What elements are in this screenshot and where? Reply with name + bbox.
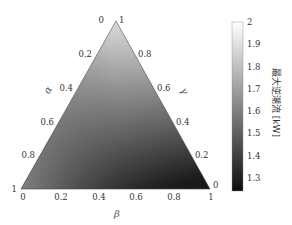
beta-tick: 0.6: [129, 192, 143, 202]
beta-axis: 0 0.2 0.4 0.6 0.8 1 β: [20, 192, 213, 219]
alpha-axis-label: α: [41, 84, 54, 96]
colorbar-tick: 1.7: [247, 84, 261, 94]
beta-tick: 1: [208, 192, 213, 202]
alpha-tick: 0.8: [21, 150, 35, 160]
gamma-tick: 1: [119, 15, 124, 25]
colorbar-label: 最大逆潮流 [kW]: [271, 68, 282, 137]
colorbar-tick: 1.8: [247, 62, 261, 72]
alpha-tick: 1: [12, 184, 17, 194]
colorbar: 2 1.9 1.8 1.7 1.6 1.5 1.4 1.3 最大逆潮流 [kW]: [232, 17, 282, 191]
beta-tick: 0.4: [92, 192, 106, 202]
ternary-triangle: [21, 21, 210, 189]
gamma-tick: 0.6: [157, 83, 171, 93]
beta-tick: 0: [20, 192, 25, 202]
colorbar-tick: 1.3: [247, 173, 261, 183]
gamma-tick: 0.8: [138, 49, 152, 59]
colorbar-tick: 2: [247, 17, 252, 27]
gamma-tick: 0.4: [176, 117, 190, 127]
alpha-tick: 0: [99, 15, 104, 25]
beta-tick: 0.8: [167, 192, 181, 202]
alpha-tick: 0.4: [59, 83, 73, 93]
gamma-tick: 0.2: [195, 150, 209, 160]
colorbar-tick: 1.5: [247, 128, 261, 138]
gamma-tick: 0: [213, 180, 218, 190]
alpha-tick: 0.6: [40, 117, 54, 127]
gamma-axis-label: γ: [178, 85, 191, 96]
colorbar-tick: 1.9: [247, 39, 261, 49]
beta-tick: 0.2: [54, 192, 68, 202]
beta-axis-label: β: [113, 208, 120, 219]
colorbar-tick: 1.4: [247, 151, 261, 161]
alpha-tick: 0.2: [78, 49, 92, 59]
colorbar-tick: 1.6: [247, 106, 261, 116]
ternary-chart: 0 0.2 0.4 0.6 0.8 1 α 1 0.8 0.6 0.4 0.2 …: [0, 0, 292, 225]
